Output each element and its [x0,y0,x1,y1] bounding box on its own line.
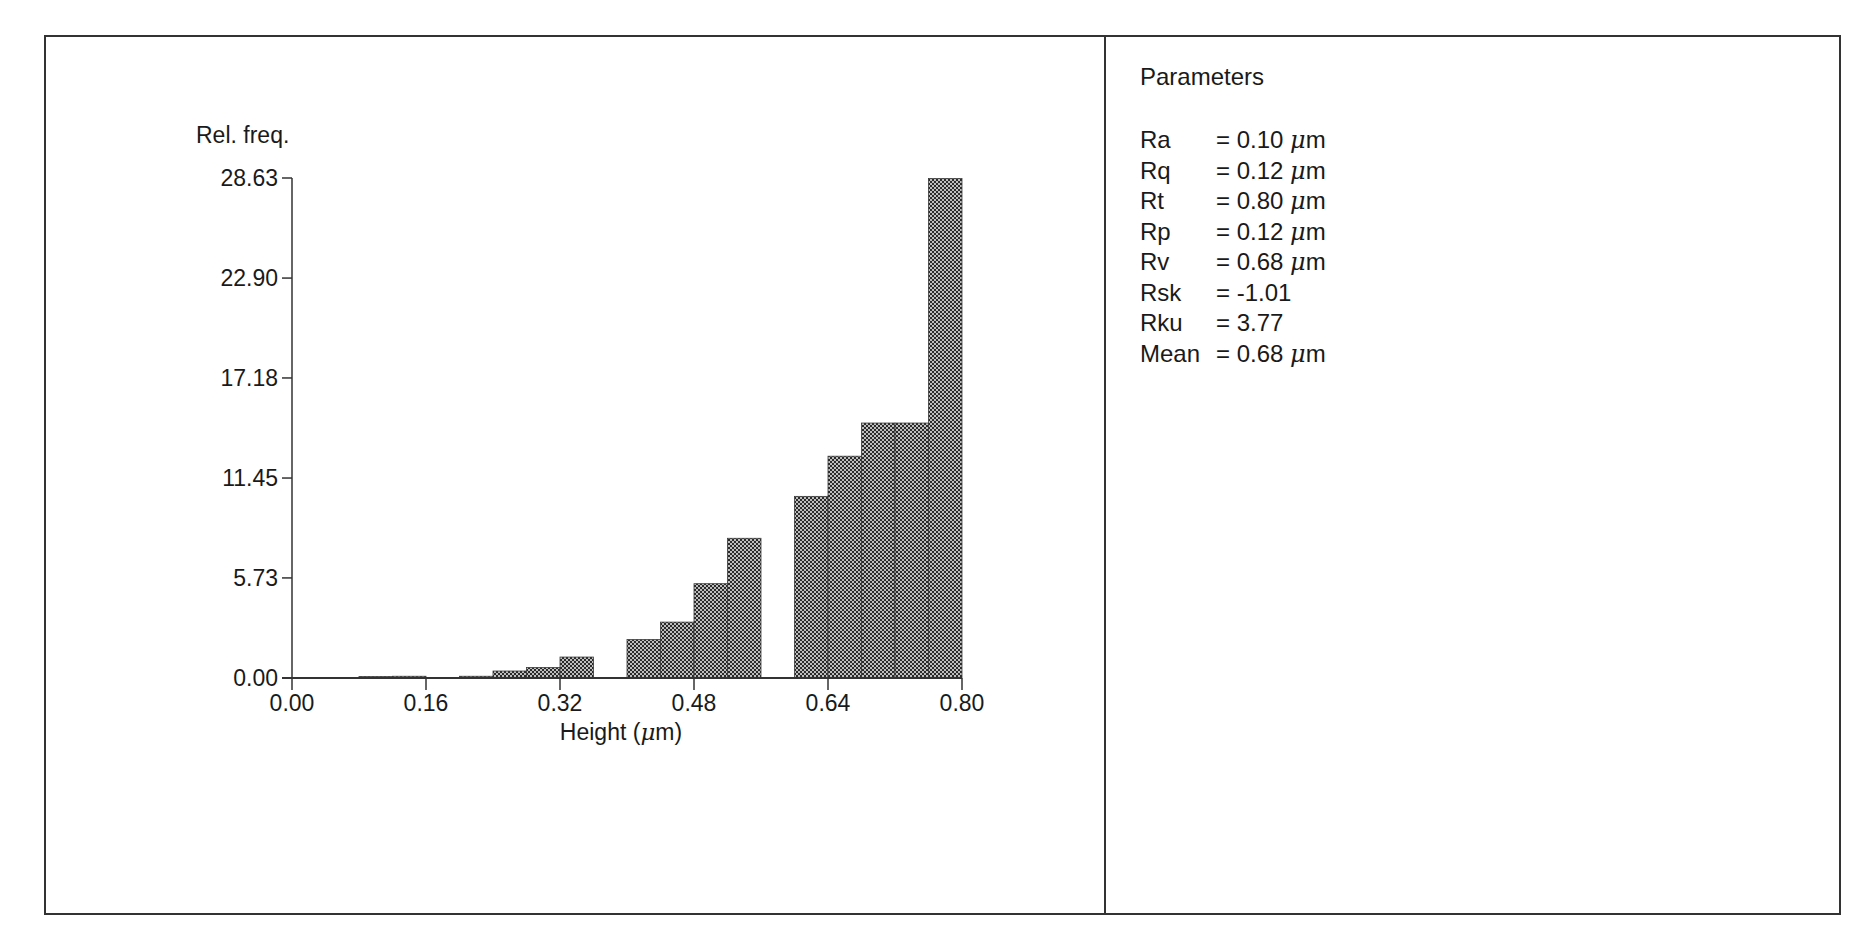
parameter-row: Rsk= -1.01 [1140,278,1326,309]
x-tick-label: 0.80 [940,690,985,716]
histogram-bar [560,657,594,678]
parameter-name: Ra [1140,125,1216,156]
parameter-row: Rku= 3.77 [1140,308,1326,339]
x-tick-label: 0.32 [538,690,583,716]
y-tick-label: 11.45 [222,465,278,491]
parameter-name: Rp [1140,217,1216,248]
height-distribution-histogram: Rel. freq. 0.005.7311.4517.1822.9028.63 … [46,37,1104,913]
histogram-bar [728,538,762,678]
parameter-name: Rku [1140,308,1216,339]
parameter-name: Rt [1140,186,1216,217]
parameter-value: = 0.80 μm [1216,186,1326,217]
histogram-bar [929,179,963,678]
parameter-unit: μm [1283,248,1325,275]
parameter-row: Rp= 0.12 μm [1140,217,1326,248]
parameters-table: Ra= 0.10 μmRq= 0.12 μmRt= 0.80 μmRp= 0.1… [1140,125,1326,369]
parameter-row: Mean= 0.68 μm [1140,339,1326,370]
parameter-value: = -1.01 [1216,278,1326,309]
parameter-row: Rq= 0.12 μm [1140,156,1326,187]
histogram-bar [828,456,862,678]
parameter-value: = 3.77 [1216,308,1326,339]
parameter-unit: μm [1283,218,1325,245]
x-tick-label: 0.64 [806,690,851,716]
histogram-bar [627,640,661,678]
parameter-row: Rv= 0.68 μm [1140,247,1326,278]
parameter-value: = 0.12 μm [1216,156,1326,187]
y-tick-label: 28.63 [220,165,278,191]
parameter-unit: μm [1283,126,1325,153]
parameter-row: Ra= 0.10 μm [1140,125,1326,156]
parameter-unit: μm [1283,157,1325,184]
y-tick-label: 17.18 [220,365,278,391]
parameter-unit: μm [1283,340,1325,367]
x-tick-label: 0.16 [404,690,449,716]
parameter-name: Rv [1140,247,1216,278]
histogram-bar [661,622,695,678]
histogram-bar [895,423,929,678]
parameter-value: = 0.68 μm [1216,247,1326,278]
parameters-title: Parameters [1140,63,1264,91]
parameter-name: Rq [1140,156,1216,187]
y-tick-label: 5.73 [233,565,278,591]
x-axis: 0.000.160.320.480.640.80 [270,678,985,716]
histogram-bar [694,584,728,678]
histogram-bar [795,496,829,678]
x-axis-label: Height (μm) [560,719,682,745]
parameters-panel: Parameters Ra= 0.10 μmRq= 0.12 μmRt= 0.8… [1106,37,1839,913]
y-tick-label: 22.90 [220,265,278,291]
x-tick-label: 0.00 [270,690,315,716]
histogram-bar [527,668,561,678]
histogram-panel: Rel. freq. 0.005.7311.4517.1822.9028.63 … [46,37,1104,913]
parameter-value: = 0.10 μm [1216,125,1326,156]
parameter-value: = 0.12 μm [1216,217,1326,248]
parameter-unit: μm [1283,187,1325,214]
y-axis-label: Rel. freq. [196,122,289,148]
parameter-name: Rsk [1140,278,1216,309]
histogram-bar [493,671,527,678]
histogram-bars [282,179,962,678]
histogram-bar [862,423,896,678]
parameter-value: = 0.68 μm [1216,339,1326,370]
y-tick-label: 0.00 [233,665,278,691]
parameter-name: Mean [1140,339,1216,370]
y-axis: 0.005.7311.4517.1822.9028.63 [220,165,292,691]
x-tick-label: 0.48 [672,690,717,716]
parameter-row: Rt= 0.80 μm [1140,186,1326,217]
